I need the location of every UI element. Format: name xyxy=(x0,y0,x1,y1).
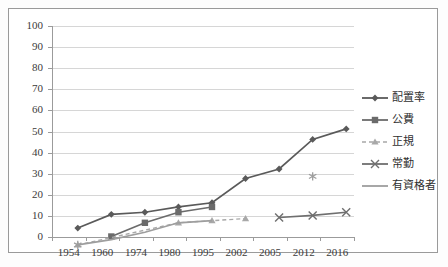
data-point-square xyxy=(175,209,181,215)
data-point-diamond xyxy=(276,166,283,173)
y-tick-label: 30 xyxy=(13,168,43,179)
y-tick-label: 80 xyxy=(13,62,43,73)
gridline xyxy=(52,47,354,48)
data-point-diamond xyxy=(242,175,249,182)
gridline xyxy=(52,68,354,69)
data-point-triangle xyxy=(175,219,182,225)
data-point-diamond xyxy=(372,95,379,102)
y-tick-label: 100 xyxy=(13,20,43,31)
y-tick-label: 0 xyxy=(13,231,43,242)
legend-label: 常勤 xyxy=(392,154,414,170)
legend-label: 正規 xyxy=(392,132,414,148)
y-tick-label: 40 xyxy=(13,147,43,158)
x-tick-label: 2002 xyxy=(226,246,248,258)
y-tick-label: 90 xyxy=(13,41,43,52)
gridline xyxy=(52,153,354,154)
legend-key-cross-icon xyxy=(361,156,389,168)
legend-label: 配置率 xyxy=(392,88,425,104)
legend-label: 公費 xyxy=(392,110,414,126)
legend-key-asterisk-icon xyxy=(361,178,389,190)
x-tick-label: 1954 xyxy=(58,246,80,258)
series-常勤 xyxy=(275,208,350,221)
legend-item-配置率[interactable]: 配置率 xyxy=(361,85,443,107)
chart-frame: 1009080706050403020100 19541960197419801… xyxy=(8,8,438,253)
x-tick-label: 2016 xyxy=(326,246,348,258)
legend-item-正規[interactable]: 正規 xyxy=(361,129,443,151)
data-point-diamond xyxy=(309,136,316,143)
data-point-square xyxy=(142,220,148,226)
x-tick-label: 2005 xyxy=(259,246,281,258)
data-point-square xyxy=(209,204,215,210)
x-tick-mark xyxy=(354,237,355,241)
y-tick-label: 60 xyxy=(13,104,43,115)
legend-key-triangle-icon xyxy=(361,134,389,146)
y-tick-label: 70 xyxy=(13,83,43,94)
data-point-square xyxy=(372,117,378,123)
series-正規 xyxy=(74,215,249,248)
series-line xyxy=(78,221,212,245)
data-point-cross xyxy=(275,214,283,222)
legend-key-diamond-icon xyxy=(361,90,389,102)
legend-item-常勤[interactable]: 常勤 xyxy=(361,151,443,173)
gridline xyxy=(52,132,354,133)
x-axis-line xyxy=(52,237,354,238)
y-tick-label: 20 xyxy=(13,189,43,200)
data-point-diamond xyxy=(175,204,182,211)
legend-item-有資格者[interactable]: 有資格者 xyxy=(361,173,443,195)
x-tick-label: 1960 xyxy=(91,246,113,258)
gridline xyxy=(52,195,354,196)
x-tick-label: 1974 xyxy=(125,246,147,258)
data-point-diamond xyxy=(209,199,216,206)
gridline xyxy=(52,26,354,27)
y-tick-label: 50 xyxy=(13,126,43,137)
gridline xyxy=(52,174,354,175)
x-tick-label: 1980 xyxy=(158,246,180,258)
gridline xyxy=(52,110,354,111)
legend-item-公費[interactable]: 公費 xyxy=(361,107,443,129)
y-axis-line xyxy=(52,26,53,238)
series-line xyxy=(111,207,212,237)
series-公費 xyxy=(108,204,215,240)
clipped-title xyxy=(0,0,448,7)
data-point-triangle xyxy=(208,217,215,223)
data-point-diamond xyxy=(141,209,148,216)
legend: 配置率公費正規常勤有資格者 xyxy=(361,85,443,195)
gridline xyxy=(52,89,354,90)
data-point-diamond xyxy=(74,225,81,232)
gridline xyxy=(52,216,354,217)
x-tick-label: 1995 xyxy=(192,246,214,258)
x-tick-label: 2012 xyxy=(293,246,315,258)
chart-page: 1009080706050403020100 19541960197419801… xyxy=(0,0,448,267)
series-line xyxy=(78,129,346,228)
legend-key-square-icon xyxy=(361,112,389,124)
y-tick-label: 10 xyxy=(13,210,43,221)
legend-label: 有資格者 xyxy=(392,176,436,192)
